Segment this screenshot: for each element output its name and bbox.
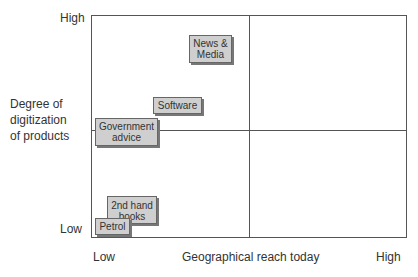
y-low-label: Low: [60, 222, 82, 236]
item-government-advice: Government advice: [95, 118, 158, 146]
y-axis-title: Degree of digitization of products: [10, 96, 69, 144]
item-news-media: News & Media: [189, 35, 232, 63]
item-petrol: Petrol: [95, 218, 130, 235]
x-low-label: Low: [93, 250, 115, 264]
x-high-label: High: [376, 250, 401, 264]
y-high-label: High: [60, 11, 85, 25]
vertical-divider: [249, 15, 250, 238]
x-axis-title: Geographical reach today: [182, 250, 319, 264]
item-software: Software: [153, 97, 202, 114]
